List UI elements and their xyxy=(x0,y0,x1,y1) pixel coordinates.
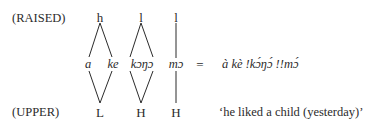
surface-transcription: à kè !kɔ́ŋɔ́ !!mɔ́ xyxy=(222,58,298,71)
association-line-l-kono-left xyxy=(130,23,141,57)
top-tone-3: l xyxy=(174,11,178,24)
association-line-a-L xyxy=(89,71,100,103)
association-line-l-kono-right xyxy=(141,23,153,57)
top-tone-1: h xyxy=(97,11,104,24)
top-tone-2: l xyxy=(139,11,143,24)
association-line-ke-L xyxy=(100,71,112,103)
gloss-translation: ‘he liked a child (yesterday)’ xyxy=(219,106,363,119)
segment-mo: mɔ xyxy=(169,58,184,71)
association-line-h-a xyxy=(89,23,100,57)
raised-row-label: (RAISED) xyxy=(12,12,65,25)
segment-a: a xyxy=(85,58,91,71)
segment-kono: kɔŋɔ xyxy=(131,58,154,71)
association-line-h-ke xyxy=(100,23,112,57)
bottom-tone-3: H xyxy=(171,106,180,119)
equals-sign: = xyxy=(196,58,203,71)
segment-ke: ke xyxy=(107,58,118,71)
bottom-tone-2: H xyxy=(136,106,145,119)
upper-row-label: (UPPER) xyxy=(12,106,59,119)
bottom-tone-1: L xyxy=(96,106,104,119)
association-line-kono-H-left xyxy=(130,71,141,103)
association-line-kono-H-right xyxy=(141,71,153,103)
